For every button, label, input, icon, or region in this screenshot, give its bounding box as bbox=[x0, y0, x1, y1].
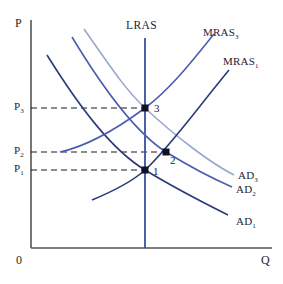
ad2-label-sub: 2 bbox=[252, 190, 256, 198]
ad2-label: AD2 bbox=[236, 184, 256, 198]
mras3-curve bbox=[60, 34, 214, 152]
price-tick-p1: P1 bbox=[14, 163, 24, 177]
price-tick-p1-sub: 1 bbox=[20, 169, 24, 177]
ad1-label-text: AD bbox=[236, 215, 252, 227]
equilibrium-label-2: 2 bbox=[170, 155, 176, 166]
equilibrium-label-1: 1 bbox=[153, 166, 159, 177]
ad1-label: AD1 bbox=[236, 216, 256, 230]
mras3-label: MRAS3 bbox=[203, 27, 239, 41]
ad1-curve bbox=[47, 55, 228, 215]
price-tick-p2-sub: 2 bbox=[20, 151, 24, 159]
lras-label: LRAS bbox=[126, 20, 157, 32]
price-tick-p2: P2 bbox=[14, 145, 24, 159]
origin-label: 0 bbox=[16, 254, 22, 266]
mras1-label-sub: 1 bbox=[255, 62, 259, 70]
ad2-curve bbox=[72, 37, 232, 187]
equilibrium-marker-1 bbox=[142, 167, 149, 174]
mras1-label-text: MRAS bbox=[223, 55, 255, 67]
y-axis-label: P bbox=[15, 17, 22, 29]
ad3-label-sub: 3 bbox=[254, 176, 258, 184]
price-tick-p3-sub: 3 bbox=[20, 107, 24, 115]
mras3-label-text: MRAS bbox=[203, 26, 235, 38]
x-axis-label: Q bbox=[261, 254, 270, 266]
ad2-label-text: AD bbox=[236, 183, 252, 195]
ad-as-plot bbox=[0, 0, 283, 284]
diagram-canvas: P Q 0 P3 P2 P1 LRAS MRAS3 MRAS1 AD3 AD2 … bbox=[0, 0, 283, 284]
equilibrium-marker-3 bbox=[142, 105, 149, 112]
mras1-label: MRAS1 bbox=[223, 56, 259, 70]
mras1-curve bbox=[92, 70, 229, 200]
ad1-label-sub: 1 bbox=[252, 222, 256, 230]
equilibrium-marker-2 bbox=[163, 149, 170, 156]
price-tick-p3: P3 bbox=[14, 101, 24, 115]
equilibrium-label-3: 3 bbox=[154, 103, 160, 114]
ad3-label-text: AD bbox=[238, 169, 254, 181]
mras3-label-sub: 3 bbox=[235, 33, 239, 41]
